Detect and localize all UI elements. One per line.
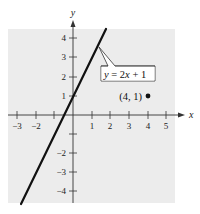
x-tick-label: −3 <box>12 121 22 131</box>
equation-rhs: + 1 <box>130 69 146 80</box>
equation-mid: = 2 <box>109 69 125 80</box>
y-tick-label: 1 <box>62 91 67 101</box>
x-tick-label: −2 <box>31 121 41 131</box>
point-4-1 <box>146 94 151 99</box>
y-tick-label: −3 <box>56 167 66 177</box>
y-tick-label: 3 <box>62 52 67 62</box>
y-tick-label: −2 <box>56 148 66 158</box>
y-tick-label: 4 <box>62 33 67 43</box>
x-tick-label: 1 <box>90 121 95 131</box>
x-tick-label: 3 <box>127 121 132 131</box>
y-axis-arrow-icon <box>71 20 76 27</box>
x-tick-label: 5 <box>164 121 169 131</box>
y-axis-label: y <box>70 7 76 18</box>
equation-label: y = 2x + 1 <box>103 69 146 80</box>
y-tick-label: −4 <box>56 186 66 196</box>
x-axis-arrow-icon <box>178 113 185 118</box>
x-tick-label: 2 <box>108 121 113 131</box>
point-label: (4, 1) <box>119 91 142 103</box>
chart: x −3 −2 1 2 3 4 5 y <box>0 0 200 214</box>
y-tick-label: 2 <box>62 72 67 82</box>
x-tick-label: 4 <box>146 121 151 131</box>
x-axis-label: x <box>188 109 194 120</box>
